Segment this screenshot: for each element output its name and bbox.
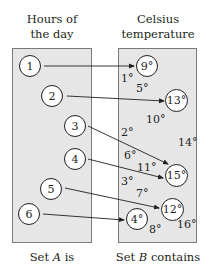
set-b-value-16: 16°	[177, 219, 197, 231]
set-b-value-3: 3°	[121, 176, 134, 188]
set-a-element-2: 2	[41, 85, 63, 107]
set-b-value-10: 10°	[146, 114, 166, 126]
set-b-value-6: 6°	[124, 150, 137, 162]
set-a-element-5: 5	[40, 178, 62, 200]
set-b-value-5: 5°	[136, 83, 149, 95]
set-b-value-7: 7°	[136, 188, 149, 200]
set-b-circled-15: 15°	[165, 164, 188, 187]
set-b-value-8: 8°	[149, 224, 162, 236]
set-a-caption: Set A is	[10, 250, 94, 264]
set-b-value-1: 1°	[121, 73, 134, 85]
set-b-circled-9: 9°	[136, 55, 158, 77]
set-a-element-1: 1	[19, 55, 41, 77]
set-a-variable: A	[53, 250, 61, 264]
set-a-element-3: 3	[64, 115, 86, 137]
set-b-value-14: 14°	[178, 137, 198, 149]
set-b-variable: B	[139, 250, 147, 264]
arrow-6-to-4	[43, 214, 124, 220]
set-b-caption: Set B contains	[112, 250, 201, 264]
set-b-circled-13: 13°	[165, 89, 188, 112]
set-a-element-4: 4	[64, 148, 86, 170]
arrow-2-to-13	[67, 96, 164, 101]
set-b-value-11: 11°	[137, 162, 157, 174]
mapping-arrows	[0, 0, 201, 265]
set-b-value-2: 2°	[121, 127, 134, 139]
set-a-element-6: 6	[18, 203, 40, 225]
set-b-circled-4: 4°	[126, 208, 148, 230]
